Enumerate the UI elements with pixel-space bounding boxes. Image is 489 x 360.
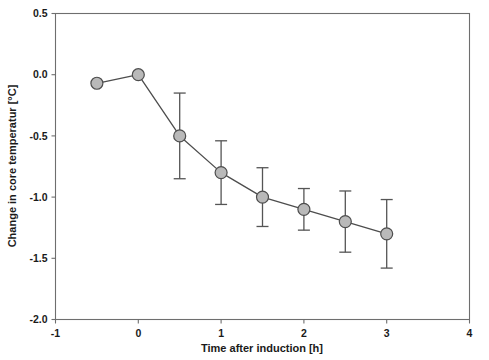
y-tick-label: -0.5 bbox=[29, 130, 47, 142]
x-tick-label: 3 bbox=[384, 327, 390, 339]
x-tick-label: -1 bbox=[51, 327, 60, 339]
y-axis-ticks: 0.50.0-0.5-1.0-1.5-2.0 bbox=[29, 7, 55, 325]
x-axis-title: Time after induction [h] bbox=[201, 342, 323, 354]
x-tick-label: 0 bbox=[135, 327, 141, 339]
data-point-marker bbox=[298, 203, 310, 215]
plot-border bbox=[56, 14, 470, 320]
data-point-marker bbox=[132, 69, 144, 81]
x-axis-ticks: -101234 bbox=[51, 320, 473, 339]
y-tick-label: -1.0 bbox=[29, 191, 47, 203]
y-tick-label: 0.5 bbox=[33, 7, 48, 19]
x-tick-label: 2 bbox=[301, 327, 307, 339]
data-point-marker bbox=[174, 130, 186, 142]
chart-figure: 0.50.0-0.5-1.0-1.5-2.0 -101234 Change in… bbox=[0, 0, 489, 360]
y-tick-label: 0.0 bbox=[33, 68, 48, 80]
data-point-marker bbox=[381, 228, 393, 240]
data-point-marker bbox=[215, 167, 227, 179]
data-markers bbox=[91, 69, 393, 240]
y-axis-title: Change in core temperatur [°C] bbox=[6, 84, 18, 247]
data-point-marker bbox=[91, 77, 103, 89]
chart-svg: 0.50.0-0.5-1.0-1.5-2.0 -101234 Change in… bbox=[0, 0, 489, 360]
data-point-marker bbox=[339, 216, 351, 228]
data-line-series-1 bbox=[97, 75, 387, 234]
y-tick-label: -1.5 bbox=[29, 252, 47, 264]
data-point-marker bbox=[257, 191, 269, 203]
x-tick-label: 4 bbox=[467, 327, 473, 339]
x-tick-label: 1 bbox=[218, 327, 224, 339]
y-tick-label: -2.0 bbox=[29, 313, 47, 325]
plot-frame bbox=[56, 14, 470, 320]
error-bars bbox=[174, 93, 393, 268]
